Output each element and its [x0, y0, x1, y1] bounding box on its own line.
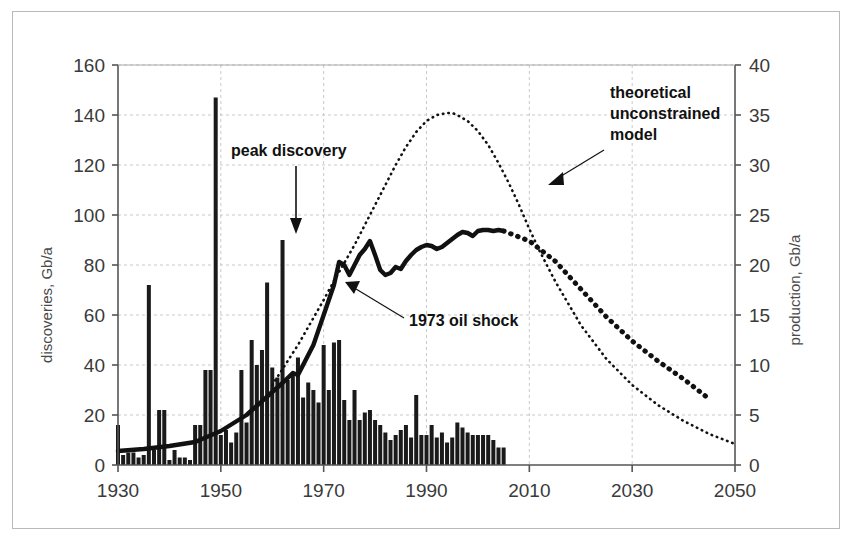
y2-tick-label: 0 — [749, 455, 760, 476]
y2-tick-label: 40 — [749, 55, 770, 76]
x-tick-label: 2050 — [714, 480, 756, 501]
y2-tick-label: 30 — [749, 155, 770, 176]
y-tick-label: 100 — [73, 205, 105, 226]
model-arrow-head — [548, 172, 564, 185]
y-tick-label: 80 — [84, 255, 105, 276]
y-tick-label: 40 — [84, 355, 105, 376]
model-label-line1: theoretical — [610, 84, 691, 101]
peak-discovery-arrow-head — [290, 218, 302, 234]
chart-page: 0204060801001201401600510152025303540193… — [0, 0, 854, 543]
theoretical-model-curve — [272, 113, 735, 444]
oil-discovery-production-chart: 0204060801001201401600510152025303540193… — [0, 0, 854, 543]
oil-shock-label: 1973 oil shock — [409, 312, 518, 329]
y-tick-label: 160 — [73, 55, 105, 76]
x-tick-label: 1990 — [405, 480, 447, 501]
annotation-unconstrained-model: theoretical unconstrained model — [548, 84, 720, 185]
right-axis-title: production, Gb/a — [786, 234, 803, 346]
model-arrow-line — [558, 150, 604, 178]
y-tick-label: 60 — [84, 305, 105, 326]
peak-discovery-label: peak discovery — [231, 142, 347, 159]
x-tick-label: 1930 — [97, 480, 139, 501]
y2-tick-label: 15 — [749, 305, 770, 326]
x-tick-label: 2010 — [508, 480, 550, 501]
y-tick-label: 120 — [73, 155, 105, 176]
x-tick-label: 1970 — [303, 480, 345, 501]
oil-shock-arrow-head — [345, 281, 360, 294]
annotation-oil-shock: 1973 oil shock — [345, 281, 518, 329]
y2-tick-label: 20 — [749, 255, 770, 276]
y2-tick-label: 25 — [749, 205, 770, 226]
y-tick-label: 140 — [73, 105, 105, 126]
y2-tick-label: 10 — [749, 355, 770, 376]
oil-shock-arrow-line — [356, 289, 404, 318]
model-label-line3: model — [610, 126, 657, 143]
left-axis-title: discoveries, Gb/a — [38, 246, 55, 363]
y2-tick-label: 5 — [749, 405, 760, 426]
y-tick-label: 0 — [94, 455, 105, 476]
x-tick-label: 2030 — [611, 480, 653, 501]
y-tick-label: 20 — [84, 405, 105, 426]
model-label-line2: unconstrained — [610, 105, 720, 122]
y2-tick-label: 35 — [749, 105, 770, 126]
x-tick-label: 1950 — [200, 480, 242, 501]
annotation-peak-discovery: peak discovery — [231, 142, 347, 234]
